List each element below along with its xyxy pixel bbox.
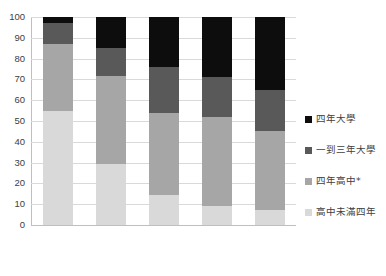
y-axis-tick-label: 70 bbox=[14, 75, 25, 85]
bar-segment[interactable] bbox=[149, 195, 179, 225]
legend-item-four-year-college[interactable]: 四年大學 bbox=[305, 104, 386, 135]
legend-item-less-than-four-year-high-school[interactable]: 高中未滿四年 bbox=[305, 197, 386, 228]
bar-segment[interactable] bbox=[149, 113, 179, 195]
legend-swatch-icon bbox=[305, 116, 312, 123]
legend-item-four-year-high-school[interactable]: 四年高中* bbox=[305, 166, 386, 197]
bar-segment[interactable] bbox=[96, 164, 126, 225]
legend-item-label: 高中未滿四年 bbox=[316, 207, 376, 217]
bar-segment[interactable] bbox=[202, 206, 232, 225]
y-axis-tick-label: 40 bbox=[14, 137, 25, 147]
legend-item-one-to-three-year-college[interactable]: 一到三年大學 bbox=[305, 135, 386, 166]
bar-segment[interactable] bbox=[255, 17, 285, 90]
plot-area bbox=[31, 17, 296, 225]
bar-segment[interactable] bbox=[149, 17, 179, 67]
legend-item-label: 四年大學 bbox=[316, 114, 356, 124]
legend-swatch-icon bbox=[305, 147, 312, 154]
bar-segment[interactable] bbox=[43, 23, 73, 44]
bar-segment[interactable] bbox=[96, 48, 126, 76]
y-axis-tick-label: 10 bbox=[14, 199, 25, 209]
y-axis-tick-label: 30 bbox=[14, 158, 25, 168]
bar-segment[interactable] bbox=[202, 17, 232, 77]
bar-segment[interactable] bbox=[202, 117, 232, 206]
legend-item-label: 一到三年大學 bbox=[316, 145, 376, 155]
bar-segment[interactable] bbox=[43, 111, 73, 225]
y-axis-tick-label: 100 bbox=[9, 12, 25, 22]
bar-column[interactable] bbox=[43, 17, 73, 225]
bar-segment[interactable] bbox=[255, 210, 285, 225]
bar-column[interactable] bbox=[149, 17, 179, 225]
bar-segment[interactable] bbox=[255, 90, 285, 132]
bar-segment[interactable] bbox=[43, 44, 73, 111]
bar-column[interactable] bbox=[96, 17, 126, 225]
bars-layer bbox=[31, 17, 296, 225]
y-axis-tick-label: 80 bbox=[14, 54, 25, 64]
bar-segment[interactable] bbox=[149, 67, 179, 113]
bar-segment[interactable] bbox=[96, 76, 126, 163]
bar-segment[interactable] bbox=[255, 131, 285, 210]
bar-column[interactable] bbox=[202, 17, 232, 225]
y-axis-tick-label: 60 bbox=[14, 95, 25, 105]
chart-legend: 四年大學一到三年大學四年高中*高中未滿四年 bbox=[305, 104, 386, 228]
stacked-bar-chart: 0102030405060708090100 四年大學一到三年大學四年高中*高中… bbox=[0, 0, 386, 276]
y-axis-tick-label: 90 bbox=[14, 33, 25, 43]
bar-column[interactable] bbox=[255, 17, 285, 225]
bar-segment[interactable] bbox=[96, 17, 126, 48]
y-axis-tick-label: 20 bbox=[14, 179, 25, 189]
y-axis-tick-labels: 0102030405060708090100 bbox=[0, 17, 29, 225]
axis-baseline bbox=[31, 225, 296, 226]
bar-segment[interactable] bbox=[202, 77, 232, 117]
y-axis-tick-label: 0 bbox=[20, 220, 25, 230]
y-axis-tick-label: 50 bbox=[14, 116, 25, 126]
legend-swatch-icon bbox=[305, 178, 312, 185]
legend-swatch-icon bbox=[305, 209, 312, 216]
legend-item-label: 四年高中* bbox=[316, 176, 361, 186]
